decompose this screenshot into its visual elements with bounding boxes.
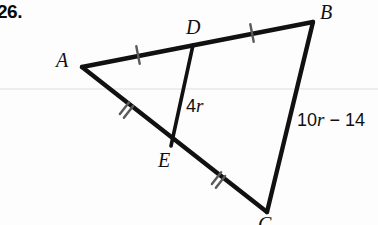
measure-bc-variable: r: [317, 109, 324, 130]
problem-number: 26.: [0, 2, 22, 21]
tick-mark-ad: [136, 46, 139, 64]
figure-page: 26. A B C D E 4r 10r − 14: [0, 0, 378, 225]
tick-mark-db: [250, 24, 253, 42]
measure-label-de: 4r: [186, 96, 203, 115]
vertex-label-d: D: [186, 17, 200, 37]
vertex-label-a: A: [56, 50, 68, 70]
measure-bc-operator: −: [329, 110, 340, 130]
vertex-label-c: C: [258, 214, 271, 225]
measure-de-coefficient: 4: [186, 96, 196, 116]
measure-label-bc: 10r − 14: [297, 110, 365, 129]
vertex-label-b: B: [320, 2, 332, 22]
tick-mark-ec: [212, 172, 225, 187]
measure-de-variable: r: [196, 95, 203, 116]
vertex-label-e: E: [158, 150, 170, 170]
measure-bc-constant: 14: [345, 110, 365, 130]
measure-bc-coefficient: 10: [297, 110, 317, 130]
